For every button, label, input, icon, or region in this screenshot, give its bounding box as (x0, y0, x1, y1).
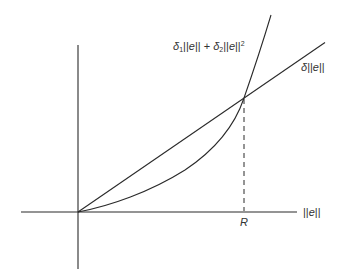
plus-sign: + (201, 40, 214, 52)
norm-bar: || (315, 206, 321, 218)
quadratic-curve-label: δ1||e|| + δ2||e||2 (173, 40, 245, 53)
norm-bar: || (319, 61, 325, 73)
intersection-r-label: R (240, 217, 248, 228)
squared-superscript: 2 (241, 40, 245, 47)
linear-line-label: δ||e|| (301, 62, 325, 73)
linear-bound-line (78, 43, 325, 213)
x-axis-label: ||e|| (303, 207, 321, 218)
